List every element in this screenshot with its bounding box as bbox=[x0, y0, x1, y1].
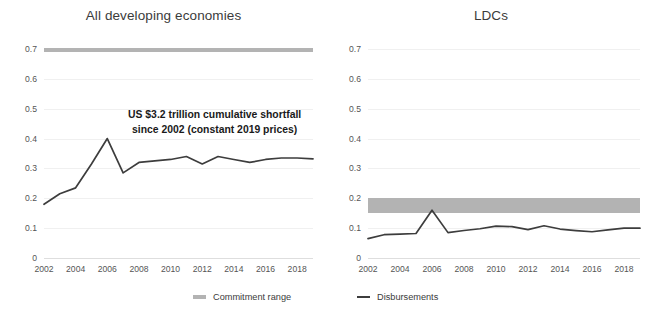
x-axis-tick-label: 2002 bbox=[358, 264, 377, 274]
chart-panel-all-developing-economies: All developing economies 00.10.20.30.40.… bbox=[0, 0, 327, 285]
annotation-left: US $3.2 trillion cumulative shortfall si… bbox=[128, 108, 301, 138]
series-line-disbursements bbox=[44, 139, 313, 205]
legend-label-commitment-range: Commitment range bbox=[213, 292, 291, 302]
y-axis-tick-label: 0.3 bbox=[25, 163, 37, 173]
x-axis-tick-label: 2016 bbox=[582, 264, 601, 274]
x-axis-tick-label: 2012 bbox=[193, 264, 212, 274]
y-axis-tick-label: 0 bbox=[32, 253, 37, 263]
x-axis-tick-label: 2012 bbox=[518, 264, 537, 274]
y-axis-tick-label: 0.7 bbox=[349, 44, 361, 54]
x-axis-tick-label: 2016 bbox=[256, 264, 275, 274]
y-axis-tick-label: 0.7 bbox=[25, 44, 37, 54]
y-axis-tick-label: 0.4 bbox=[349, 134, 361, 144]
x-axis-tick-label: 2018 bbox=[614, 264, 633, 274]
x-axis-line bbox=[44, 258, 313, 259]
disbursements-line-swatch-icon bbox=[357, 296, 370, 298]
x-axis-tick-label: 2018 bbox=[288, 264, 307, 274]
series-layer bbox=[368, 49, 640, 258]
x-axis-tick-label: 2010 bbox=[486, 264, 505, 274]
y-axis-tick-label: 0.4 bbox=[25, 134, 37, 144]
y-axis-tick-label: 0.3 bbox=[349, 163, 361, 173]
y-axis-tick-label: 0.5 bbox=[349, 104, 361, 114]
x-axis-tick-label: 2006 bbox=[98, 264, 117, 274]
legend-label-disbursements: Disbursements bbox=[377, 292, 438, 302]
y-axis-tick-label: 0.6 bbox=[25, 74, 37, 84]
x-axis-line bbox=[368, 258, 640, 259]
x-axis-tick-label: 2004 bbox=[390, 264, 409, 274]
legend-item-disbursements: Disbursements bbox=[357, 292, 438, 302]
y-axis-tick-label: 0.2 bbox=[25, 193, 37, 203]
annotation-left-line1: US $3.2 trillion cumulative shortfall bbox=[128, 108, 301, 123]
legend-item-commitment-range: Commitment range bbox=[193, 292, 291, 302]
commitment-range-swatch-icon bbox=[193, 295, 206, 299]
x-axis-tick-label: 2014 bbox=[550, 264, 569, 274]
x-axis-tick-label: 2002 bbox=[34, 264, 53, 274]
chart-figure: All developing economies 00.10.20.30.40.… bbox=[0, 0, 655, 318]
annotation-left-line2: since 2002 (constant 2019 prices) bbox=[128, 123, 301, 138]
x-axis-tick-label: 2004 bbox=[66, 264, 85, 274]
x-axis-tick-label: 2008 bbox=[129, 264, 148, 274]
panel-title-right: LDCs bbox=[327, 8, 655, 23]
panel-title-left: All developing economies bbox=[0, 8, 327, 23]
y-axis-tick-label: 0 bbox=[356, 253, 361, 263]
series-layer bbox=[44, 49, 313, 258]
x-axis-tick-label: 2014 bbox=[224, 264, 243, 274]
series-line-disbursements bbox=[368, 210, 640, 238]
y-axis-tick-label: 0.1 bbox=[25, 223, 37, 233]
plot-area-right: 00.10.20.30.40.50.60.7200220042006200820… bbox=[368, 49, 640, 258]
plot-area-left: 00.10.20.30.40.50.60.7200220042006200820… bbox=[44, 49, 313, 258]
x-axis-tick-label: 2006 bbox=[422, 264, 441, 274]
chart-panel-ldcs: LDCs 00.10.20.30.40.50.60.72002200420062… bbox=[327, 0, 655, 285]
y-axis-tick-label: 0.2 bbox=[349, 193, 361, 203]
x-axis-tick-label: 2008 bbox=[454, 264, 473, 274]
y-axis-tick-label: 0.6 bbox=[349, 74, 361, 84]
y-axis-tick-label: 0.1 bbox=[349, 223, 361, 233]
x-axis-tick-label: 2010 bbox=[161, 264, 180, 274]
chart-legend: Commitment range Disbursements bbox=[0, 292, 655, 312]
y-axis-tick-label: 0.5 bbox=[25, 104, 37, 114]
